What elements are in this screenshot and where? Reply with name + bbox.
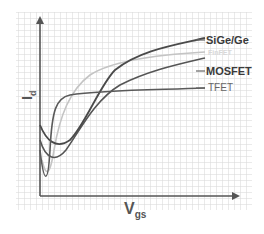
x-axis-label: Vgs <box>124 200 146 220</box>
legend-label-finfet: FinFET <box>208 49 232 56</box>
transfer-characteristics-diagram: SiGe/Ge FinFET MOSFET TFET Id Vgs <box>0 0 264 234</box>
legend-label-sige-ge: SiGe/Ge <box>206 34 249 46</box>
legend-label-mosfet: MOSFET <box>206 65 252 77</box>
legend-label-tfet: TFET <box>208 82 233 93</box>
y-axis-label: Id <box>19 91 38 100</box>
